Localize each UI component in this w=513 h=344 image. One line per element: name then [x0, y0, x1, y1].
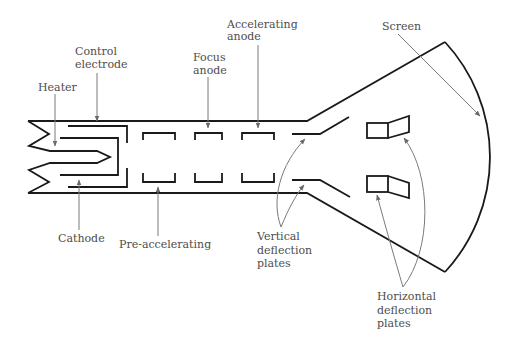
pre-accelerating-anode-shape [143, 133, 175, 182]
horizontal-deflection-leader-upper [403, 138, 425, 287]
label-horizontal-deflection-plates: Horizontal deflection plates [377, 290, 440, 330]
horizontal-deflection-leader-lower [377, 195, 403, 287]
label-focus-anode: Focus anode [193, 51, 229, 77]
label-screen: Screen [382, 20, 421, 33]
screen-arc [445, 42, 490, 272]
label-vertical-deflection-plates: Vertical deflection plates [256, 230, 316, 270]
heater-element [28, 121, 110, 193]
horizontal-deflection-plates-shape [367, 116, 409, 198]
vertical-deflection-leader-lower [281, 185, 304, 227]
label-control-electrode: Control electrode [75, 45, 128, 71]
crt-diagram: Control electrode Heater Focus anode Acc… [0, 0, 513, 344]
crt-diagram-svg: Control electrode Heater Focus anode Acc… [0, 0, 513, 344]
vertical-deflection-leader-upper [277, 139, 305, 227]
vertical-deflection-plates-shape [292, 117, 350, 197]
label-cathode: Cathode [58, 232, 105, 245]
label-pre-accelerating: Pre-accelerating [119, 238, 211, 251]
focus-anode-shape [195, 133, 222, 182]
label-accelerating-anode: Accelerating anode [226, 18, 301, 44]
labels: Control electrode Heater Focus anode Acc… [38, 18, 440, 331]
label-heater: Heater [38, 81, 78, 94]
accelerating-anode-shape [242, 133, 274, 182]
